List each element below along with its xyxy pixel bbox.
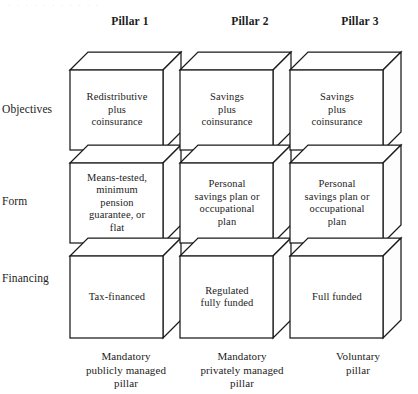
cell-text: Tax-financed [70, 291, 164, 304]
cell-text: Regulated fully funded [180, 285, 274, 310]
row-label-objectives: Objectives [2, 103, 68, 115]
cell-text: Full funded [290, 291, 384, 304]
caption-pillar-1: Mandatory publicly managed pillar [60, 350, 192, 391]
cell-pillar-2-form: Personal savings plan or occupational pl… [180, 163, 274, 243]
cell-text: Savings plus coinsurance [290, 91, 384, 129]
cell-text: Savings plus coinsurance [180, 91, 274, 129]
cell-pillar-3-objectives: Savings plus coinsurance [290, 70, 384, 150]
cell-text: Personal savings plan or occupational pl… [290, 178, 384, 228]
cell-text: Personal savings plan or occupational pl… [180, 178, 274, 228]
cell-pillar-1-objectives: Redistributive plus coinsurance [70, 70, 164, 150]
row-label-financing: Financing [2, 272, 68, 284]
cell-pillar-3-financing: Full funded [290, 256, 384, 338]
caption-pillar-3: Voluntary pillar [292, 350, 418, 377]
caption-pillar-2: Mandatory privately managed pillar [176, 350, 308, 391]
pillar-3-column: Savings plus coinsurance Personal saving… [282, 0, 414, 360]
cell-text: Redistributive plus coinsurance [70, 91, 164, 129]
cell-pillar-1-financing: Tax-financed [70, 256, 164, 338]
box-top-face [70, 52, 181, 70]
box-side-face [383, 145, 401, 243]
box-side-face [383, 52, 401, 150]
cell-pillar-3-form: Personal savings plan or occupational pl… [290, 163, 384, 243]
cell-text: Means-tested, minimum pension guarantee,… [70, 172, 164, 235]
cell-pillar-1-form: Means-tested, minimum pension guarantee,… [70, 163, 164, 243]
cell-pillar-2-objectives: Savings plus coinsurance [180, 70, 274, 150]
box-top-face [180, 52, 291, 70]
box-top-face [290, 52, 401, 70]
row-label-form: Form [2, 195, 68, 207]
cell-pillar-2-financing: Regulated fully funded [180, 256, 274, 338]
box-side-face [383, 238, 401, 338]
